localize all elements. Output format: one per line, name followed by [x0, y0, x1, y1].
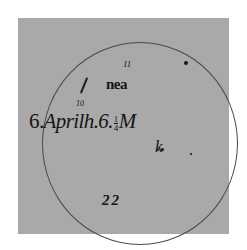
spot-k-label: k [155, 138, 163, 155]
sunspot-dot [184, 61, 188, 65]
time-suffix: M [119, 109, 136, 133]
fraction-numerator: 1 [114, 115, 118, 123]
hour-prefix: h.6. [84, 109, 113, 133]
date-day: 6. [29, 109, 44, 133]
spot-number-11: 11 [123, 60, 131, 69]
date-time-label: 6.Aprilh.6.14M [29, 111, 136, 132]
date-month: April [44, 109, 84, 133]
spot-group-label: nea [106, 77, 127, 92]
sunspot-dot [190, 153, 192, 155]
spot-number-10: 10 [76, 100, 84, 108]
fraction-denominator: 4 [114, 123, 118, 132]
solar-disk-outline [42, 42, 238, 245]
page-number: 22 [102, 193, 121, 208]
hour-fraction: 14 [114, 115, 118, 132]
